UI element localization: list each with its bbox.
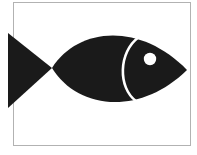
- fish-artwork: Black silhouette of a fish facing right …: [0, 0, 197, 155]
- fish-eye: [144, 53, 156, 65]
- image-canvas: Black silhouette of a fish facing right …: [0, 0, 197, 155]
